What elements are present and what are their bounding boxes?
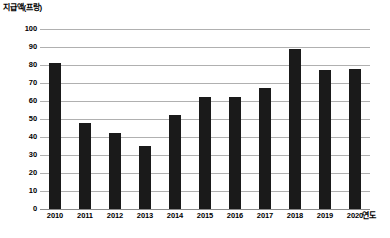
y-tick-label: 0 [3,205,37,213]
plot-area [40,29,370,209]
bar-slot [160,29,190,209]
bar [49,63,61,209]
bar [139,146,151,209]
bar [109,133,121,209]
y-axis-title: 지급액(프랑) [3,2,42,13]
y-tick-label: 80 [3,61,37,69]
x-axis-tick-labels: 2010201120122013201420152016201720182019… [40,211,370,225]
y-tick-label: 10 [3,187,37,195]
bar [229,97,241,209]
bar [79,123,91,209]
bar-slot [130,29,160,209]
x-axis-title: 연도 [362,210,376,221]
bar [319,70,331,209]
y-tick-label: 20 [3,169,37,177]
bar-slot [40,29,70,209]
bar-chart: 지급액(프랑) 1009080706050403020100 201020112… [0,0,390,238]
bar [289,49,301,209]
bar-slot [70,29,100,209]
bar-slot [100,29,130,209]
bar [259,88,271,209]
y-tick-label: 50 [3,115,37,123]
bar-slot [310,29,340,209]
gridline [40,209,370,210]
y-tick-label: 40 [3,133,37,141]
bar-slot [340,29,370,209]
bar-slot [190,29,220,209]
y-tick-label: 100 [3,25,37,33]
bar-slot [250,29,280,209]
y-tick-label: 70 [3,79,37,87]
y-axis-tick-labels: 1009080706050403020100 [0,29,37,209]
y-tick-label: 30 [3,151,37,159]
y-tick-label: 90 [3,43,37,51]
bar-slot [280,29,310,209]
bar-slot [220,29,250,209]
bar [349,69,361,209]
y-tick-label: 60 [3,97,37,105]
bar [199,97,211,209]
bar [169,115,181,209]
